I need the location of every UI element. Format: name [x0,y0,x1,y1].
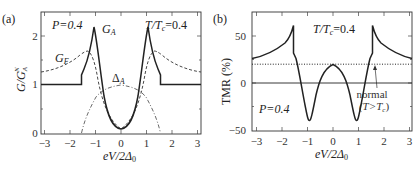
ytick-b-0: 0 [241,77,247,89]
x-axis-label-a: eV/2Δ0 [103,149,136,164]
xtick-a: −3 [39,137,51,149]
ytick-a-0: 0 [32,127,38,139]
y-ticks-b [252,36,412,107]
series-label-ga: GA [102,22,116,37]
panel-a-label: (a) [2,12,15,26]
y-ticks-a [41,36,201,109]
normal-label: normal [356,88,387,100]
xtick-a: −1 [90,137,102,149]
xtick-b: 3 [407,135,413,147]
x-axis-label-b: eV/2Δ0 [315,147,348,162]
ytick-a-2: 2 [32,30,38,42]
xtick-b: −1 [302,135,314,147]
ytick-a-1: 1 [32,78,38,90]
xtick-a: 3 [195,137,201,149]
ytick-b-50: 50 [235,30,247,42]
xtick-a: 2 [169,137,175,149]
series-label-da: ΔA [112,71,125,86]
annotation-t-b: T/Tc=0.4 [313,22,355,37]
xtick-a: −2 [64,137,76,149]
xtick-b: 1 [356,135,362,147]
series-delta-a [82,85,161,133]
annotation-p-a: P=0.4 [51,18,82,32]
annotation-p-b: P=0.4 [258,102,289,116]
arrow-line [375,67,377,88]
xtick-b: −2 [276,135,288,147]
panel-a: (a) [2,12,201,164]
xtick-a: 0 [118,137,124,149]
xtick-b: −3 [251,135,263,147]
panel-b-label: (b) [213,12,227,26]
normal-condition: (T>Tc) [359,100,389,114]
arrow-head-icon [373,65,377,70]
ytick-b-neg50: −50 [229,124,247,136]
panel-b: (b) −50 [213,12,413,162]
xtick-a: 1 [144,137,150,149]
annotation-t-a: T/Tc=0.4 [145,18,187,33]
xtick-b: 0 [330,135,336,147]
figure: (a) [0,0,419,169]
y-axis-label-b: TMR (%) [219,58,233,105]
xtick-b: 2 [381,135,387,147]
y-axis-label-a: G/GAN [13,66,29,92]
